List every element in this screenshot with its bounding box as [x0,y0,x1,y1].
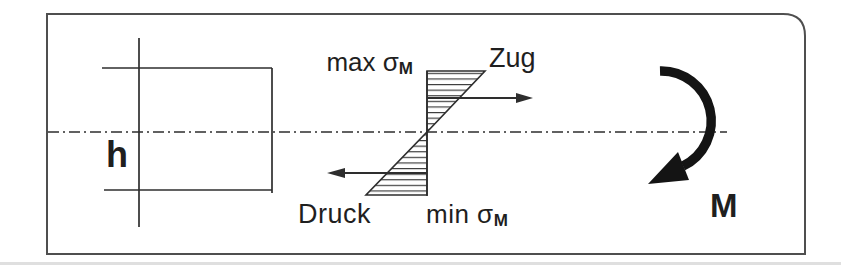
max-stress-text: max σ [326,47,398,77]
scan-edge-line [0,262,841,265]
moment-label: M [710,189,738,222]
max-stress-subscript: M [399,59,413,78]
compression-label: Druck [298,201,371,228]
max-stress-label: max σM [303,49,413,77]
figure-panel: h max σM Zug Druck min σM M [0,0,841,267]
moment-arc [660,71,711,166]
tension-arrowhead [516,93,533,103]
compression-stress-triangle [366,132,427,195]
section-height-label: h [106,137,128,173]
min-stress-label: min σM [426,201,508,229]
min-stress-text: min σ [426,199,494,229]
stress-distribution [366,71,485,196]
compression-arrowhead [327,168,345,178]
min-stress-subscript: M [494,211,508,230]
tension-label: Zug [489,45,536,72]
moment-arrowhead [648,152,689,184]
moment-arrow [648,71,711,184]
tension-stress-triangle [427,71,485,132]
